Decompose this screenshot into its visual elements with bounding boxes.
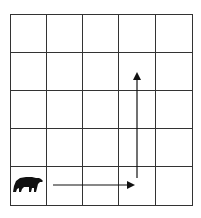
grid (10, 14, 193, 206)
bear-icon (13, 177, 43, 192)
arrow-up-head (133, 72, 141, 80)
path-arrows (53, 72, 141, 189)
arrow-right-head (127, 181, 135, 189)
grid-border (11, 15, 193, 206)
grid-diagram (0, 0, 201, 218)
